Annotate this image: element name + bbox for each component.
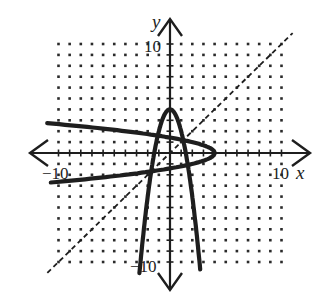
grid-dot — [102, 184, 105, 187]
grid-dot — [180, 97, 183, 100]
grid-dot — [202, 65, 205, 68]
grid-dot — [224, 195, 227, 198]
grid-dot — [280, 97, 283, 100]
grid-dot — [80, 97, 83, 100]
grid-dot — [269, 130, 272, 133]
grid-dot — [80, 206, 83, 209]
grid-dot — [180, 250, 183, 253]
grid-dot — [146, 250, 149, 253]
grid-dot — [213, 54, 216, 57]
grid-dot — [80, 54, 83, 57]
grid-dot — [224, 261, 227, 264]
grid-dot — [180, 239, 183, 242]
grid-dot — [191, 119, 194, 122]
grid-dot — [80, 86, 83, 89]
grid-dot — [258, 250, 261, 253]
grid-dot — [280, 250, 283, 253]
x-min-tick-label: −10 — [42, 164, 69, 183]
grid-dot — [280, 108, 283, 111]
grid-dot — [280, 206, 283, 209]
grid-dot — [236, 130, 239, 133]
grid-dot — [224, 206, 227, 209]
grid-dot — [124, 97, 127, 100]
grid-dot — [224, 228, 227, 231]
grid-dot — [258, 184, 261, 187]
grid-dot — [224, 130, 227, 133]
grid-dot — [224, 86, 227, 89]
grid-dot — [236, 54, 239, 57]
grid-dot — [191, 43, 194, 46]
grid-dot — [213, 261, 216, 264]
grid-dot — [124, 228, 127, 231]
grid-dot — [146, 141, 149, 144]
grid-dot — [191, 108, 194, 111]
grid-dot — [269, 239, 272, 242]
grid-dot — [124, 184, 127, 187]
grid-dot — [135, 163, 138, 166]
grid-dot — [113, 141, 116, 144]
grid-dot — [80, 65, 83, 68]
grid-dot — [113, 195, 116, 198]
grid-dot — [80, 130, 83, 133]
grid-dot — [113, 119, 116, 122]
grid-dot — [224, 75, 227, 78]
grid-dot — [146, 108, 149, 111]
grid-dot — [146, 228, 149, 231]
grid-dot — [135, 75, 138, 78]
grid-dot — [269, 261, 272, 264]
grid-dot — [269, 141, 272, 144]
grid-dot — [224, 108, 227, 111]
grid-dot — [91, 217, 94, 220]
grid-dot — [102, 43, 105, 46]
grid-dot — [180, 108, 183, 111]
grid-dot — [191, 54, 194, 57]
grid-dot — [158, 195, 161, 198]
grid-dot — [280, 130, 283, 133]
grid-dot — [236, 119, 239, 122]
grid-dot — [224, 141, 227, 144]
grid-dot — [146, 163, 149, 166]
grid-dot — [247, 228, 250, 231]
grid-dot — [202, 250, 205, 253]
grid-dot — [68, 97, 71, 100]
grid-dot — [258, 43, 261, 46]
grid-dot — [258, 228, 261, 231]
grid-dot — [91, 119, 94, 122]
grid-dot — [57, 239, 60, 242]
grid-dot — [202, 75, 205, 78]
grid-dot — [68, 228, 71, 231]
grid-dot — [269, 97, 272, 100]
grid-dot — [191, 86, 194, 89]
grid-dot — [68, 217, 71, 220]
grid-dot — [202, 239, 205, 242]
grid-dot — [280, 239, 283, 242]
grid-dot — [68, 163, 71, 166]
grid-dot — [258, 195, 261, 198]
grid-dot — [57, 54, 60, 57]
grid-dot — [247, 206, 250, 209]
grid-dot — [269, 108, 272, 111]
grid-dot — [213, 163, 216, 166]
grid-dot — [258, 163, 261, 166]
grid-dot — [91, 43, 94, 46]
grid-dot — [91, 54, 94, 57]
grid-dot — [158, 108, 161, 111]
grid-dot — [269, 43, 272, 46]
grid-dot — [57, 195, 60, 198]
grid-dot — [236, 97, 239, 100]
grid-dot — [202, 54, 205, 57]
grid-dot — [113, 86, 116, 89]
grid-dot — [269, 184, 272, 187]
grid-dot — [213, 141, 216, 144]
grid-dot — [102, 141, 105, 144]
grid-dot — [280, 184, 283, 187]
grid-dot — [202, 174, 205, 177]
grid-dot — [236, 75, 239, 78]
grid-dot — [280, 75, 283, 78]
grid-dot — [113, 184, 116, 187]
grid-dot — [91, 195, 94, 198]
grid-dot — [224, 54, 227, 57]
grid-dot — [57, 86, 60, 89]
grid-dot — [68, 206, 71, 209]
grid-dot — [80, 75, 83, 78]
